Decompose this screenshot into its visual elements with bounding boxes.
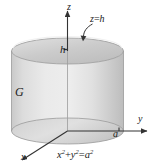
z-equals-h-annotation: z=h	[90, 14, 105, 24]
cylinder-diagram-figure: z h z=h G y a x x2+y2=a2	[0, 0, 151, 167]
z-equals-h-leader-curve	[84, 24, 93, 37]
equation-rhs-exponent: 2	[90, 148, 93, 155]
height-tick-label: h	[60, 44, 66, 55]
y-axis-label: y	[138, 114, 142, 124]
base-circle-equation: x2+y2=a2	[57, 150, 93, 161]
x-axis-label: x	[21, 152, 25, 162]
cylinder-diagram-svg	[0, 0, 151, 167]
region-label: G	[15, 86, 24, 98]
z-equals-h-rhs: h	[100, 13, 105, 24]
radius-tick-label: a	[113, 129, 118, 139]
z-axis-label: z	[67, 2, 71, 12]
